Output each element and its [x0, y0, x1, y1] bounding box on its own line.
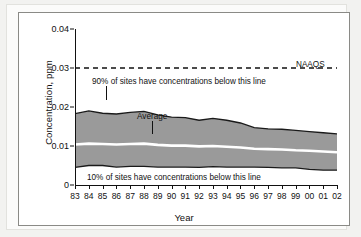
x-tick-label: 93: [208, 191, 217, 201]
x-tick-label: 84: [84, 191, 93, 201]
figure-page: Concentration, ppm 00.010.020.030.04 838…: [0, 0, 361, 237]
x-tick-label: 96: [250, 191, 259, 201]
y-axis-line: [75, 29, 76, 185]
x-tick-mark: [213, 185, 214, 189]
annotation-p90-leader: [106, 86, 107, 100]
plot-area: [75, 29, 337, 185]
x-tick-label: 95: [236, 191, 245, 201]
x-tick-mark: [158, 185, 159, 189]
x-tick-label: 94: [222, 191, 231, 201]
x-tick-mark: [75, 185, 76, 189]
x-tick-mark: [199, 185, 200, 189]
x-tick-label: 99: [291, 191, 300, 201]
y-tick-label: 0.02: [19, 102, 69, 112]
figure-card: Concentration, ppm 00.010.020.030.04 838…: [6, 4, 347, 230]
x-tick-mark: [227, 185, 228, 189]
figure-frame: Concentration, ppm 00.010.020.030.04 838…: [18, 12, 350, 226]
y-tick-mark: [70, 29, 74, 30]
x-tick-label: 87: [125, 191, 134, 201]
x-tick-mark: [185, 185, 186, 189]
annotation-naaqs: NAAQS: [296, 60, 325, 69]
x-tick-label: 86: [112, 191, 121, 201]
x-tick-mark: [240, 185, 241, 189]
y-tick-mark: [70, 185, 74, 186]
x-tick-mark: [254, 185, 255, 189]
x-tick-mark: [337, 185, 338, 189]
annotation-average-leader: [152, 121, 153, 134]
x-tick-mark: [103, 185, 104, 189]
y-tick-label: 0.04: [19, 24, 69, 34]
x-tick-mark: [130, 185, 131, 189]
x-tick-label: 02: [332, 191, 341, 201]
y-tick-mark: [70, 146, 74, 147]
annotation-p90: 90% of sites have concentrations below t…: [92, 77, 266, 86]
x-tick-label: 85: [98, 191, 107, 201]
x-axis-line: [75, 185, 337, 186]
annotation-average: Average: [137, 112, 167, 121]
x-tick-label: 00: [305, 191, 314, 201]
x-tick-label: 89: [153, 191, 162, 201]
x-tick-mark: [323, 185, 324, 189]
x-tick-label: 83: [70, 191, 79, 201]
x-tick-label: 97: [263, 191, 272, 201]
x-tick-mark: [172, 185, 173, 189]
x-tick-mark: [89, 185, 90, 189]
x-tick-label: 98: [277, 191, 286, 201]
x-tick-mark: [309, 185, 310, 189]
x-tick-label: 91: [181, 191, 190, 201]
y-tick-mark: [70, 68, 74, 69]
x-axis-labels: 8384858687888990919293949596979899000102: [75, 191, 337, 203]
x-tick-mark: [116, 185, 117, 189]
annotation-p10: 10% of sites have concentrations below t…: [87, 173, 261, 182]
x-tick-label: 01: [318, 191, 327, 201]
x-axis-title: Year: [19, 212, 349, 223]
x-tick-label: 90: [167, 191, 176, 201]
x-tick-label: 88: [139, 191, 148, 201]
x-tick-label: 92: [194, 191, 203, 201]
x-tick-mark: [268, 185, 269, 189]
x-tick-mark: [282, 185, 283, 189]
chart-svg: [75, 29, 337, 185]
x-tick-mark: [296, 185, 297, 189]
x-tick-mark: [144, 185, 145, 189]
y-tick-label: 0: [19, 180, 69, 190]
y-tick-label: 0.03: [19, 63, 69, 73]
y-tick-label: 0.01: [19, 141, 69, 151]
y-tick-mark: [70, 107, 74, 108]
